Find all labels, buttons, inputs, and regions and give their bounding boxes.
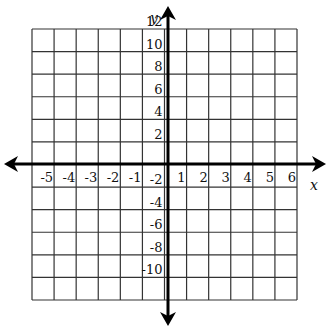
x-tick-label: 2 bbox=[199, 170, 207, 185]
y-tick-label: 6 bbox=[154, 82, 162, 97]
y-tick-label: 8 bbox=[154, 59, 162, 74]
y-tick-label: 2 bbox=[154, 127, 162, 142]
y-tick-label: 4 bbox=[154, 104, 162, 119]
x-axis-label: x bbox=[310, 177, 318, 193]
y-tick-label: -4 bbox=[150, 195, 163, 210]
y-tick-label: 10 bbox=[146, 37, 163, 52]
x-tick-label: -1 bbox=[129, 170, 142, 185]
y-tick-labels: 12108642-2-4-6-8-10 bbox=[142, 14, 163, 277]
y-tick-label: -8 bbox=[150, 240, 163, 255]
x-tick-label: -5 bbox=[40, 170, 53, 185]
x-tick-label: 1 bbox=[177, 170, 185, 185]
x-tick-label: 5 bbox=[266, 170, 274, 185]
y-tick-label: -2 bbox=[150, 172, 163, 187]
x-tick-label: 6 bbox=[288, 170, 296, 185]
x-tick-label: -2 bbox=[107, 170, 120, 185]
y-tick-label: -10 bbox=[142, 262, 163, 277]
y-tick-label: -6 bbox=[150, 217, 163, 232]
y-axis-label: y bbox=[149, 10, 159, 26]
x-tick-label: -3 bbox=[85, 170, 98, 185]
x-tick-label: -4 bbox=[62, 170, 75, 185]
coordinate-plane: -5-4-3-2-1123456 12108642-2-4-6-8-10 x y bbox=[0, 0, 333, 336]
x-tick-label: 3 bbox=[221, 170, 229, 185]
x-tick-label: 4 bbox=[244, 170, 252, 185]
